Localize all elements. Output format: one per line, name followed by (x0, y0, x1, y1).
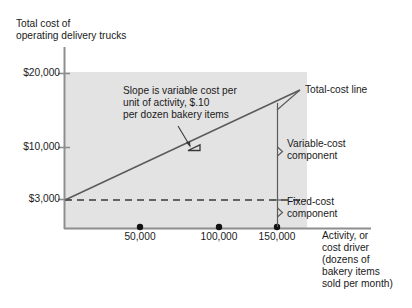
x-marker-50000 (137, 224, 143, 230)
x-tick-label-150000: 150,000 (242, 231, 312, 243)
y-tick-label-10000: $10,000 (0, 141, 60, 153)
fixed-cost-component-label: Fixed-cost component (287, 196, 337, 220)
x-tick-label-50000: 50,000 (105, 231, 175, 243)
y-tick-label-3000: $3,000 (0, 193, 60, 205)
slope-annotation-text: Slope is variable cost per unit of activ… (123, 85, 237, 121)
x-axis-title: Activity, or cost driver (dozens of bake… (322, 230, 393, 290)
cost-behavior-chart: Total cost of operating delivery trucks … (0, 0, 412, 308)
y-axis-title: Total cost of operating delivery trucks (16, 18, 126, 42)
total-cost-line-label: Total-cost line (305, 84, 367, 96)
y-tick-label-20000: $20,000 (0, 67, 60, 79)
x-marker-100000 (216, 224, 222, 230)
variable-cost-component-label: Variable-cost component (287, 138, 346, 162)
